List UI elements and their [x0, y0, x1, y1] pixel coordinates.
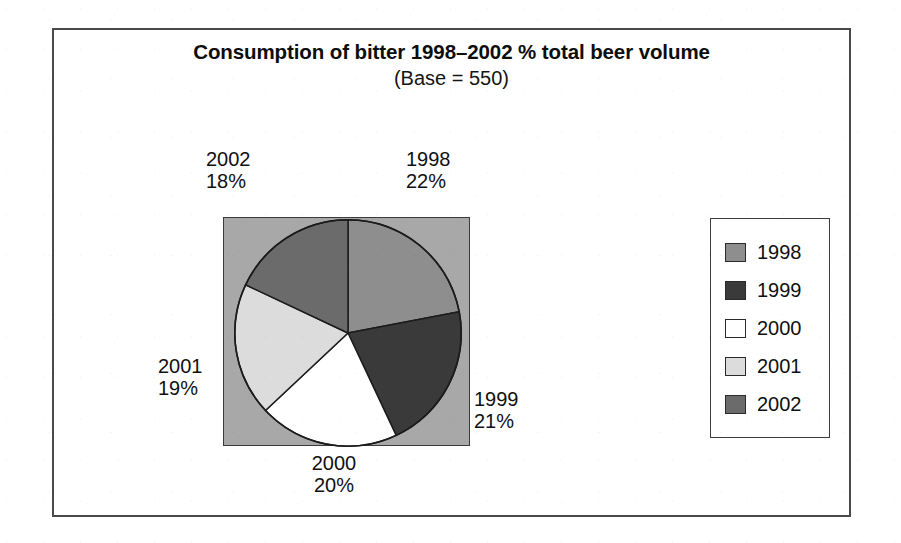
legend-item: 2002 — [725, 385, 829, 423]
legend-label-2002: 2002 — [757, 394, 802, 414]
pie-slice-group — [235, 220, 461, 446]
slice-label-1998-value: 22% — [406, 170, 451, 192]
slice-label-1999-value: 21% — [474, 410, 519, 432]
legend-label-1998: 1998 — [757, 242, 802, 262]
slice-label-2001: 2001 19% — [158, 355, 203, 400]
slice-label-2000-value: 20% — [289, 474, 379, 496]
slice-label-1999: 1999 21% — [474, 388, 519, 433]
slice-label-2001-value: 19% — [158, 377, 203, 399]
legend-swatch-2002 — [725, 395, 746, 414]
figure-frame: Consumption of bitter 1998–2002 % total … — [52, 28, 851, 517]
chart-subtitle: (Base = 550) — [54, 66, 849, 90]
legend-swatch-2001 — [725, 357, 746, 376]
legend-label-1999: 1999 — [757, 280, 802, 300]
slice-label-1998: 1998 22% — [406, 148, 451, 193]
pie-svg — [204, 217, 491, 448]
legend-swatch-1999 — [725, 281, 746, 300]
legend-label-2001: 2001 — [757, 356, 802, 376]
slice-label-2002-value: 18% — [206, 170, 251, 192]
legend-item: 2000 — [725, 309, 829, 347]
legend: 1998 1999 2000 2001 2002 — [710, 218, 830, 438]
pie-chart — [224, 218, 471, 447]
plot-area — [223, 217, 470, 446]
chart-title: Consumption of bitter 1998–2002 % total … — [54, 40, 849, 64]
legend-item: 1998 — [725, 233, 829, 271]
legend-item: 1999 — [725, 271, 829, 309]
slice-label-2001-name: 2001 — [158, 355, 203, 377]
legend-label-2000: 2000 — [757, 318, 802, 338]
slice-label-1999-name: 1999 — [474, 388, 519, 410]
slice-label-2002: 2002 18% — [206, 148, 251, 193]
slice-label-2000-name: 2000 — [289, 452, 379, 474]
legend-item: 2001 — [725, 347, 829, 385]
slice-label-2000: 2000 20% — [289, 452, 379, 497]
slice-label-2002-name: 2002 — [206, 148, 251, 170]
title-block: Consumption of bitter 1998–2002 % total … — [54, 40, 849, 90]
slice-label-1998-name: 1998 — [406, 148, 451, 170]
legend-swatch-1998 — [725, 243, 746, 262]
legend-swatch-2000 — [725, 319, 746, 338]
